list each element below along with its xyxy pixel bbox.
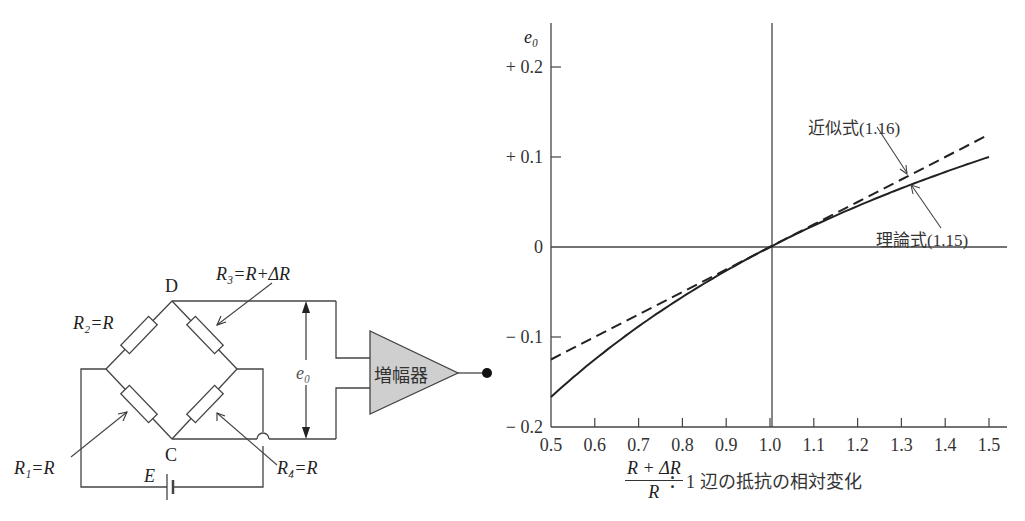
y-tick-label: − 0.1 [463, 327, 543, 348]
x-tick-label: 1.1 [803, 435, 826, 456]
x-tick-label: 1.4 [934, 435, 957, 456]
x-tick-label: 0.9 [715, 435, 738, 456]
y-tick-label: + 0.1 [463, 147, 543, 168]
x-tick-label: 0.5 [540, 435, 563, 456]
x-tick-label: 1.5 [978, 435, 1001, 456]
x-tick-label: 0.8 [671, 435, 694, 456]
x-tick-label: 0.6 [584, 435, 607, 456]
annotation-approximate: 近似式(1.16) [808, 114, 900, 139]
y-axis-label: e₀ [524, 28, 538, 46]
y-tick-label: − 0.2 [463, 417, 543, 438]
chart-plot [0, 0, 1025, 521]
x-tick-label: 1.3 [890, 435, 913, 456]
x-tick-label: 0.7 [627, 435, 650, 456]
annotation-theoretical: 理論式(1.15) [876, 226, 968, 251]
x-axis-description: ：1 辺の抵抗の相対変化 [668, 467, 862, 493]
y-tick-label: + 0.2 [463, 57, 543, 78]
theoretical-curve [551, 157, 989, 397]
y-tick-label: 0 [463, 237, 543, 258]
x-tick-label: 1.2 [846, 435, 869, 456]
x-tick-label: 1.0 [759, 435, 782, 456]
